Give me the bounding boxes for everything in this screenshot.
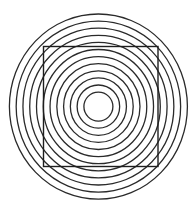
ring-3 — [70, 78, 126, 135]
ring-4 — [64, 71, 134, 143]
concentric-rings — [9, 14, 187, 199]
ring-10 — [23, 28, 174, 185]
concentric-circles-square-diagram — [0, 0, 195, 209]
ring-1 — [84, 92, 113, 121]
ring-8 — [36, 42, 160, 170]
ring-7 — [43, 50, 153, 164]
ring-5 — [57, 64, 140, 150]
ring-6 — [50, 57, 147, 157]
